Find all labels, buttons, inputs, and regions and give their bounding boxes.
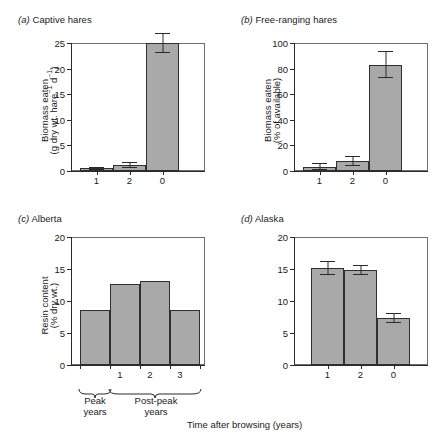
panel-d-errorbar-2 xyxy=(353,265,368,275)
panel-b-xtick-label-1: 1 xyxy=(307,175,332,186)
panel-c-ytick-10 xyxy=(67,301,71,302)
panel-d-errorbar-0 xyxy=(386,313,401,323)
panel-a-ytick-label-20: 20 xyxy=(37,63,65,74)
panel-c-y-axis xyxy=(71,237,72,366)
panel-b-ytick-label-40: 40 xyxy=(258,114,288,125)
panel-a-ytick-label-0: 0 xyxy=(37,166,65,177)
panel-c-ytick-label-5: 5 xyxy=(37,328,65,339)
panel-b-ytick-40 xyxy=(290,120,294,121)
panel-d-bar-1 xyxy=(311,268,344,365)
panel-c-annotation-post-peak: Post-peak years xyxy=(125,395,187,417)
panel-d-ytick-15 xyxy=(290,269,294,270)
panel-d-ytick-label-0: 0 xyxy=(260,360,288,371)
panel-d-ytick-label-15: 15 xyxy=(260,264,288,275)
panel-d-ytick-5 xyxy=(290,333,294,334)
panel-a-title-text: Captive hares xyxy=(32,14,91,25)
panel-c-annotation-peak: Peak years xyxy=(70,395,120,417)
panel-d-errorbar-1 xyxy=(320,261,335,275)
panel-b-title: (b) Free-ranging hares xyxy=(241,14,337,25)
panel-c-ytick-label-15: 15 xyxy=(37,264,65,275)
panel-b-ytick-label-100: 100 xyxy=(258,38,288,49)
panel-d-y-axis xyxy=(294,237,295,366)
panel-d-letter: (d) xyxy=(241,213,253,224)
panel-a-ytick-5 xyxy=(67,145,71,146)
panel-c-xtick-start xyxy=(80,365,81,369)
panel-c-xtick-b3 xyxy=(170,365,171,369)
panel-d-ytick-label-10: 10 xyxy=(260,296,288,307)
panel-d-title: (d) Alaska xyxy=(241,213,284,224)
panel-b-ytick-label-20: 20 xyxy=(258,140,288,151)
panel-c-letter: (c) xyxy=(18,213,29,224)
panel-c-x-axis xyxy=(71,365,205,366)
panel-a-xtick-label-2: 2 xyxy=(117,175,142,186)
panel-b-ytick-label-60: 60 xyxy=(258,89,288,100)
panel-a-xtick-label-1: 1 xyxy=(84,175,109,186)
panel-c-ytick-5 xyxy=(67,333,71,334)
panel-c-title-text: Alberta xyxy=(31,213,61,224)
panel-b-ytick-80 xyxy=(290,69,294,70)
panel-a-errorbar-0 xyxy=(155,33,170,54)
panel-c-ytick-label-0: 0 xyxy=(37,360,65,371)
panel-a-ytick-label-5: 5 xyxy=(37,140,65,151)
panel-c-xtick-label-3: 3 xyxy=(172,369,188,380)
panel-b-errorbar-1 xyxy=(312,163,327,169)
panel-b-ytick-20 xyxy=(290,145,294,146)
panel-a-ytick-10 xyxy=(67,120,71,121)
panel-c-bar-3 xyxy=(170,310,200,365)
panel-a-y-axis xyxy=(71,43,72,172)
panel-a-ytick-label-25: 25 xyxy=(37,38,65,49)
panel-c-bar-peak xyxy=(80,310,110,365)
panel-c-bar-2 xyxy=(140,281,170,366)
panel-a-ytick-0 xyxy=(67,171,71,172)
panel-b-xtick-label-2: 2 xyxy=(340,175,365,186)
panel-c-xtick-end xyxy=(200,365,201,369)
panel-d-ytick-20 xyxy=(290,237,294,238)
panel-d-xtick-label-1: 1 xyxy=(315,369,340,380)
panel-a-errorbar-1 xyxy=(89,167,104,170)
panel-d-xtick-label-2: 2 xyxy=(348,369,373,380)
panel-c-annotation-peak-line2: years xyxy=(70,406,120,417)
panel-a-plot-frame xyxy=(71,43,205,171)
panel-b-errorbar-0 xyxy=(378,51,393,78)
panel-a-ytick-25 xyxy=(67,43,71,44)
panel-a-errorbar-2 xyxy=(122,162,137,168)
panel-a-ytick-20 xyxy=(67,69,71,70)
panel-a-title: (a) Captive hares xyxy=(18,14,92,25)
panel-d-bar-2 xyxy=(344,270,377,365)
panel-b-errorbar-2 xyxy=(345,156,360,166)
panel-c-xtick-label-1: 1 xyxy=(112,369,128,380)
panel-d-bar-0 xyxy=(377,318,410,365)
panel-b-ytick-label-0: 0 xyxy=(258,166,288,177)
panel-c-xtick-label-2: 2 xyxy=(142,369,158,380)
panel-c-xtick-b1 xyxy=(110,365,111,369)
panel-d-ytick-label-5: 5 xyxy=(260,328,288,339)
panel-d-xtick-label-0: 0 xyxy=(381,369,406,380)
panel-b-title-text: Free-ranging hares xyxy=(255,14,337,25)
panel-b-bar-0 xyxy=(369,65,402,171)
panel-b-y-axis xyxy=(294,43,295,172)
panel-b-ytick-0 xyxy=(290,171,294,172)
panel-c-ytick-label-20: 20 xyxy=(37,232,65,243)
panel-d-ytick-label-20: 20 xyxy=(260,232,288,243)
panel-b-xtick-label-0: 0 xyxy=(373,175,398,186)
figure-xlabel: Time after browsing (years) xyxy=(187,419,302,430)
panel-a-xtick-label-0: 0 xyxy=(150,175,175,186)
panel-c-annotation-post-peak-line1: Post-peak xyxy=(125,395,187,406)
panel-a-bar-0 xyxy=(146,43,179,171)
panel-b-ytick-60 xyxy=(290,94,294,95)
panel-d-title-text: Alaska xyxy=(255,213,284,224)
panel-c-xtick-b2 xyxy=(140,365,141,369)
panel-c-bar-1 xyxy=(110,284,140,365)
panel-b-plot-frame xyxy=(294,43,428,171)
panel-c-ytick-15 xyxy=(67,269,71,270)
panel-b-ytick-100 xyxy=(290,43,294,44)
panel-c-ytick-0 xyxy=(67,365,71,366)
panel-c-ytick-20 xyxy=(67,237,71,238)
panel-c-ytick-label-10: 10 xyxy=(37,296,65,307)
panel-a-ytick-15 xyxy=(67,94,71,95)
panel-a-ytick-label-15: 15 xyxy=(37,89,65,100)
panel-c-annotation-peak-line1: Peak xyxy=(70,395,120,406)
panel-b-letter: (b) xyxy=(241,14,253,25)
panel-c-title: (c) Alberta xyxy=(18,213,62,224)
panel-c-annotation-post-peak-line2: years xyxy=(125,406,187,417)
